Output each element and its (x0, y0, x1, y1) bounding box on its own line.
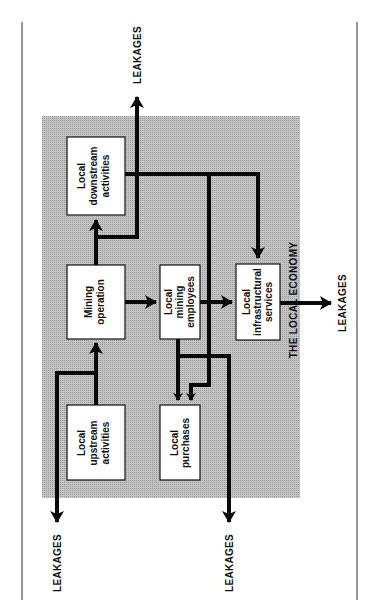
node-infrastructure: Local infrastructural services (236, 264, 280, 340)
node-employees: Local mining employees (160, 265, 200, 339)
node-infrastructure-line-2: infrastructural (252, 268, 263, 336)
node-downstream-line-1: Local (76, 163, 87, 189)
node-mining-line-2: operation (95, 279, 106, 325)
node-downstream-line-3: activities (100, 154, 111, 197)
local-economy-diagram: Local downstream activities Mining opera… (0, 0, 369, 608)
node-employees-line-1: Local (163, 289, 174, 315)
node-downstream: Local downstream activities (67, 137, 125, 215)
node-upstream-line-2: upstream (88, 420, 99, 465)
node-downstream-line-2: downstream (88, 146, 99, 205)
node-employees-line-2: mining (174, 286, 185, 319)
node-infrastructure-line-1: Local (241, 289, 252, 315)
node-upstream-line-1: Local (76, 430, 87, 456)
node-purchases-line-2: purchases (180, 418, 191, 468)
node-upstream: Local upstream activities (67, 405, 125, 480)
node-purchases: Local purchases (160, 405, 200, 480)
node-employees-line-3: employees (185, 276, 196, 328)
node-mining-line-1: Mining (83, 286, 94, 318)
node-upstream-line-3: activities (100, 421, 111, 464)
leakage-label-bottom-left: LEAKAGES (52, 534, 63, 592)
leakage-label-right: LEAKAGES (337, 274, 348, 332)
node-infrastructure-line-3: services (263, 282, 274, 322)
node-purchases-line-1: Local (169, 430, 180, 456)
node-mining: Mining operation (67, 265, 125, 339)
local-economy-label: THE LOCAL ECONOMY (288, 242, 299, 359)
leakage-label-bottom-right: LEAKAGES (224, 534, 235, 592)
leakage-label-top: LEAKAGES (132, 26, 143, 84)
